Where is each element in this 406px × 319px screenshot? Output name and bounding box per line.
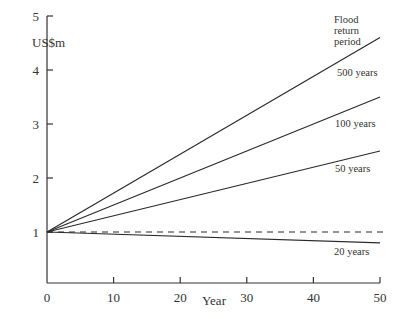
series-line-20-years — [47, 232, 380, 243]
series-line-50-years — [47, 151, 380, 232]
y-tick-label: 3 — [33, 117, 40, 132]
x-tick-label: 10 — [107, 290, 120, 305]
y-tick-label: 5 — [33, 9, 40, 24]
legend-title: return — [334, 25, 360, 36]
series-label: 50 years — [335, 163, 370, 174]
series-label: 100 years — [335, 118, 376, 129]
series-line-500-years — [47, 38, 380, 232]
labels: 1234501020304050US$mYearFloodreturnperio… — [32, 9, 387, 308]
x-tick-label: 20 — [174, 290, 187, 305]
x-tick-label: 40 — [307, 290, 320, 305]
x-tick-label: 30 — [240, 290, 253, 305]
series-line-100-years — [47, 97, 380, 232]
series-label: 500 years — [337, 67, 378, 78]
x-axis-title: Year — [202, 293, 227, 308]
legend-title: period — [334, 36, 362, 47]
y-axis-title: US$m — [32, 35, 65, 50]
series-lines — [47, 38, 383, 243]
y-tick-label: 4 — [33, 63, 40, 78]
legend-title: Flood — [334, 14, 359, 25]
x-tick-label: 50 — [374, 290, 387, 305]
y-tick-label: 2 — [33, 171, 40, 186]
series-label: 20 years — [334, 246, 369, 257]
axes — [47, 16, 380, 283]
y-tick-label: 1 — [33, 225, 40, 240]
x-tick-label: 0 — [44, 290, 51, 305]
line-chart: 1234501020304050US$mYearFloodreturnperio… — [0, 0, 406, 319]
